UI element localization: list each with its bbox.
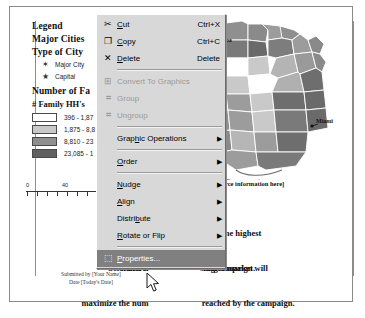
submenu-arrow-icon: ▶	[213, 232, 225, 240]
menu-item-group: ⌗Group	[97, 90, 225, 107]
menu-item-label: Cut	[117, 20, 198, 29]
ungroup-icon: ⌗	[99, 111, 117, 120]
separator-5	[117, 246, 222, 248]
menu-item-label: Order	[117, 157, 213, 166]
menu-item-label: Nudge	[117, 180, 213, 189]
menu-item-label: Copy	[117, 37, 197, 46]
group-icon: ⌗	[99, 94, 117, 103]
menu-item-convert-to-graphics: ⊞Convert To Graphics	[97, 73, 225, 90]
separator-1	[117, 69, 222, 71]
menu-item-label: Distribute	[117, 214, 213, 223]
separator-2	[117, 126, 222, 128]
submenu-arrow-icon: ▶	[213, 215, 225, 223]
legend-swatch-3	[32, 137, 57, 146]
submitted-date-line: Date [Today's Date]	[36, 278, 146, 286]
convert-icon: ⊞	[99, 77, 117, 86]
major-city-label: Major City	[52, 59, 84, 71]
major-city-icon: ✶	[38, 59, 52, 71]
legend-range-4: 23,085 - 1	[57, 150, 93, 157]
capital-label: Capital	[52, 71, 75, 83]
menu-item-copy[interactable]: ❐CopyCtrl+C	[97, 33, 225, 50]
menu-item-shortcut: Delete	[197, 54, 225, 63]
menu-item-delete[interactable]: ✕DeleteDelete	[97, 50, 225, 67]
copy-icon: ❐	[99, 37, 117, 46]
legend-swatch-4	[32, 149, 57, 158]
menu-item-label: Convert To Graphics	[117, 77, 225, 86]
menu-item-label: Group	[117, 94, 225, 103]
menu-item-shortcut: Ctrl+C	[197, 37, 225, 46]
legend-swatch-2	[32, 125, 57, 134]
menu-item-label: Align	[117, 197, 213, 206]
submitted-by-line: Submitted by [Your Name]	[36, 270, 146, 278]
menu-item-label: Ungroup	[117, 111, 225, 120]
legend-range-2: 1,875 - 8,8	[57, 126, 95, 133]
properties-icon: ⬚	[99, 254, 117, 263]
menu-item-ungroup: ⌗Ungroup	[97, 107, 225, 124]
page-rule-right	[353, 21, 354, 276]
submenu-arrow-icon: ▶	[213, 198, 225, 206]
submenu-arrow-icon: ▶	[213, 158, 225, 166]
x-icon: ✕	[99, 54, 117, 63]
menu-item-label: Delete	[117, 54, 197, 63]
legend-range-1: 396 - 1,87	[57, 114, 93, 121]
scalebar-line	[26, 191, 106, 198]
menu-item-label: Rotate or Flip	[117, 231, 213, 240]
submenu-arrow-icon: ▶	[213, 181, 225, 189]
capital-star-icon: ★	[38, 71, 52, 83]
legend-swatch-1	[32, 113, 57, 122]
menu-item-graphic-operations[interactable]: Graphic Operations▶	[97, 130, 225, 147]
menu-item-properties[interactable]: ⬚Properties...	[97, 250, 225, 267]
legend-range-3: 8,810 - 23	[57, 138, 93, 145]
submitted-by-block: Submitted by [Your Name] Date [Today's D…	[36, 270, 146, 286]
scale-tick-40: 40	[62, 182, 68, 188]
separator-3	[117, 149, 222, 151]
menu-item-nudge[interactable]: Nudge▶	[97, 176, 225, 193]
separator-4	[117, 172, 222, 174]
scale-tick-0: 0	[26, 182, 29, 188]
map-label-miami: Miami	[316, 118, 333, 124]
menu-item-align[interactable]: Align▶	[97, 193, 225, 210]
menu-item-shortcut: Ctrl+X	[198, 20, 225, 29]
paragraph-two-line-two: maximize the num reached by the campaign…	[32, 298, 344, 310]
menu-item-rotate-or-flip[interactable]: Rotate or Flip▶	[97, 227, 225, 244]
menu-item-distribute[interactable]: Distribute▶	[97, 210, 225, 227]
menu-item-label: Properties...	[117, 254, 225, 263]
menu-item-label: Graphic Operations	[117, 134, 213, 143]
context-menu[interactable]: ✂CutCtrl+X❐CopyCtrl+C✕DeleteDelete⊞Conve…	[96, 14, 226, 269]
submenu-arrow-icon: ▶	[213, 135, 225, 143]
scissors-icon: ✂	[99, 20, 117, 29]
menu-item-order[interactable]: Order▶	[97, 153, 225, 170]
menu-item-cut[interactable]: ✂CutCtrl+X	[97, 16, 225, 33]
